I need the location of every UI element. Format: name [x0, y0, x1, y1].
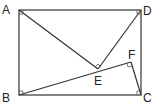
point-label-c: C [143, 91, 152, 102]
geometry-diagram: A D B C E F [0, 0, 155, 102]
rectangle-abcd [19, 10, 141, 95]
point-label-d: D [143, 4, 152, 18]
point-label-b: B [2, 91, 10, 102]
point-label-a: A [2, 3, 10, 17]
point-label-f: F [128, 48, 135, 62]
segment-ae [19, 10, 98, 69]
segment-cf [131, 62, 141, 95]
segment-bf [19, 62, 131, 95]
point-label-e: E [94, 74, 102, 88]
